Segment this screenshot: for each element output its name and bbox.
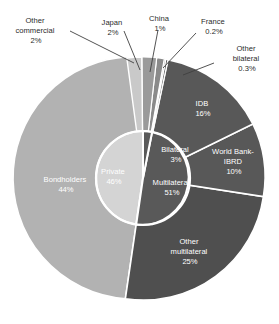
callout-japan: Japan 2% — [102, 18, 125, 37]
leader-other-commercial — [70, 31, 134, 63]
label-idb: IDB 16% — [195, 99, 210, 118]
pie-chart: Bondholders 44% Private 46% Bilateral 3%… — [0, 0, 279, 324]
callout-france: France 0.2% — [201, 17, 227, 36]
callout-other-bilateral: Other bilateral 0.3% — [233, 44, 262, 73]
callout-china: China 1% — [149, 14, 171, 33]
callout-other-commercial: Other commercial 2% — [16, 16, 57, 45]
pie-chart-svg: Bondholders 44% Private 46% Bilateral 3%… — [0, 0, 279, 324]
